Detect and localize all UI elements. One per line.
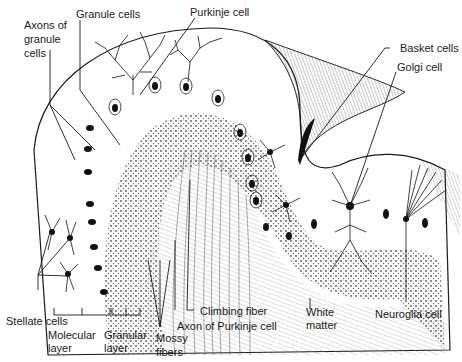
cerebellar-cortex-diagram: Axons of granule cells Granule cells Pur…: [0, 0, 462, 362]
label-stellate-cells: Stellate cells: [6, 315, 68, 327]
label-axons-of-granule-cells-1: Axons of: [24, 19, 68, 31]
label-basket-cells: Basket cells: [400, 42, 459, 54]
purkinje-dendrites: [95, 32, 222, 95]
label-axon-of-purkinje-cell: Axon of Purkinje cell: [177, 320, 277, 332]
label-golgi-cell: Golgi cell: [397, 61, 442, 73]
label-molecular-layer-1: Molecular: [48, 329, 96, 341]
label-granular-layer-1: Granular: [104, 329, 147, 341]
stellate-cells: [45, 215, 78, 292]
label-neuroglia-cell: Neuroglia cell: [375, 308, 442, 320]
label-climbing-fiber: Climbing fiber: [200, 305, 268, 317]
label-mossy-fibers-2: fibers: [156, 346, 183, 358]
label-molecular-layer-2: layer: [48, 342, 72, 354]
pia-fold: [265, 40, 405, 160]
label-axons-of-granule-cells-2: granule: [24, 33, 61, 45]
label-granular-layer-2: layer: [104, 342, 128, 354]
label-granule-cells: Granule cells: [76, 8, 141, 20]
label-mossy-fibers-1: Mossy: [156, 332, 188, 344]
label-white-matter-1: White: [306, 306, 334, 318]
label-axons-of-granule-cells-3: cells: [24, 47, 47, 59]
label-purkinje-cell: Purkinje cell: [190, 6, 249, 18]
label-white-matter-2: matter: [306, 319, 338, 331]
